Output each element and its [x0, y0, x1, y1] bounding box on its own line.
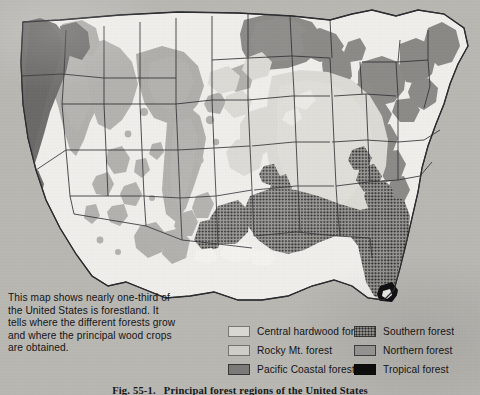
legend-item-rocky-mountain: Rocky Mt. forest [228, 341, 368, 359]
legend-item-pacific-coastal: Pacific Coastal forest [228, 360, 368, 378]
legend-label-tropical: Tropical forest [383, 364, 449, 375]
figure-caption: Fig. 55-1.Principal forest regions of th… [0, 385, 480, 395]
description-line-4: and where the principal wood crops [8, 330, 224, 343]
legend-item-northern: Northern forest [354, 341, 454, 359]
figure-caption-text: Principal forest regions of the United S… [164, 385, 368, 395]
figure-page: This map shows nearly one-third of the U… [0, 0, 480, 395]
legend-label-rocky-mountain: Rocky Mt. forest [257, 345, 332, 356]
central-hardwood-swatch-icon [228, 326, 250, 337]
figure-caption-number: Fig. 55-1. [112, 385, 156, 395]
description-line-3: tells where the different forests grow [8, 317, 224, 330]
legend-left-column: Central hardwood forest Rocky Mt. forest… [228, 322, 368, 379]
rocky-mountain-swatch-icon [228, 345, 250, 356]
description-line-2: the United States is forestland. It [8, 305, 224, 318]
northern-swatch-icon [354, 345, 376, 356]
legend-item-tropical: Tropical forest [354, 360, 454, 378]
legend-item-central-hardwood: Central hardwood forest [228, 322, 368, 340]
southern-swatch-icon [354, 326, 376, 337]
description-line-5: are obtained. [8, 342, 224, 355]
map-svg [0, 0, 480, 320]
forest-regions-map [0, 0, 480, 320]
legend-item-southern: Southern forest [354, 322, 454, 340]
legend-right-column: Southern forest Northern forest Tropical… [354, 322, 454, 379]
legend-label-northern: Northern forest [383, 345, 452, 356]
legend-label-pacific-coastal: Pacific Coastal forest [257, 364, 355, 375]
legend-label-central-hardwood: Central hardwood forest [257, 326, 368, 337]
legend-label-southern: Southern forest [383, 326, 454, 337]
tropical-swatch-icon [354, 364, 376, 375]
pacific-coastal-swatch-icon [228, 364, 250, 375]
map-description: This map shows nearly one-third of the U… [8, 292, 224, 355]
description-line-1: This map shows nearly one-third of [8, 292, 224, 305]
